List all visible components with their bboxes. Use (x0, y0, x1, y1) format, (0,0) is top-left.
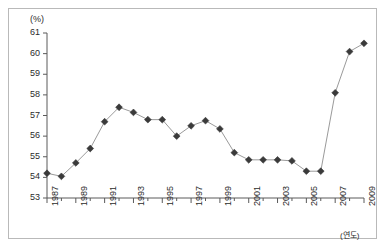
data-point-marker (245, 156, 252, 163)
y-axis-tick-label: 57 (18, 111, 40, 120)
y-axis-tick-label: 58 (18, 90, 40, 99)
data-point-marker (188, 122, 195, 129)
y-axis-tick-label: 59 (18, 69, 40, 78)
x-axis-tick-label: 1991 (109, 186, 118, 206)
y-axis-tick-label: 53 (18, 193, 40, 202)
data-point-marker (274, 156, 281, 163)
y-axis-tick-label: 55 (18, 152, 40, 161)
data-point-marker (130, 109, 137, 116)
data-point-marker (231, 149, 238, 156)
data-point-marker (144, 116, 151, 123)
x-axis-tick-label: 2005 (310, 186, 319, 206)
x-axis-tick-label: 1989 (80, 186, 89, 206)
data-point-marker (346, 48, 353, 55)
x-axis-tick-label: 1999 (224, 186, 233, 206)
data-point-marker (303, 168, 310, 175)
x-axis-tick-label: 1993 (137, 186, 146, 206)
y-axis-tick-label: 61 (18, 28, 40, 37)
x-axis-tick-label: 1995 (166, 186, 175, 206)
y-axis-tick-label: 54 (18, 172, 40, 181)
x-axis-title: (연도) (340, 229, 359, 240)
data-series-line (47, 43, 364, 176)
y-axis-tick-label: 56 (18, 131, 40, 140)
x-axis-tick-label: 2001 (253, 186, 262, 206)
data-point-marker (202, 117, 209, 124)
data-point-marker (361, 40, 368, 47)
x-axis-tick-label: 1997 (195, 186, 204, 206)
x-axis-tick-label: 2009 (368, 186, 377, 206)
data-point-marker (217, 126, 224, 133)
x-axis-tick-label: 1987 (51, 186, 60, 206)
x-axis-tick-label: 2007 (339, 186, 348, 206)
data-point-marker (332, 89, 339, 96)
line-chart-plot (0, 0, 387, 249)
data-point-marker (260, 156, 267, 163)
data-point-marker (289, 157, 296, 164)
y-axis-tick-label: 60 (18, 49, 40, 58)
chart-canvas: (%) (연도) 5354555657585960611987198919911… (0, 0, 387, 249)
x-axis-tick-label: 2003 (282, 186, 291, 206)
data-point-marker (317, 168, 324, 175)
data-point-marker (44, 170, 51, 177)
